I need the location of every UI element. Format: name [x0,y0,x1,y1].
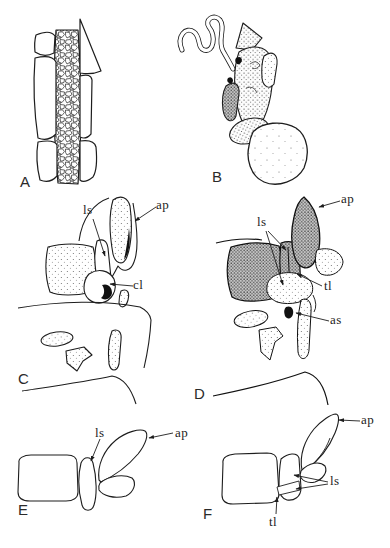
panel-a-drawing [34,19,101,184]
panel-b-drawing [180,17,307,184]
panel-letter-d: D [194,386,205,401]
leader-ap [149,433,173,438]
label-e-ls: ls [95,426,105,439]
leader-ap [135,207,156,221]
panel-e-drawing [18,430,147,510]
right-margin [144,320,151,368]
sclerite-polygon [259,327,283,360]
round-structure [84,271,115,304]
label-d-as: as [330,313,342,326]
label-f-ls: ls [330,474,340,487]
sclerite-oval [233,308,269,330]
apical-process [301,414,338,471]
label-d-tl: tl [324,279,332,292]
top-right-flap [80,19,101,74]
basal-plate [18,455,78,501]
label-d-ap: ap [341,192,354,205]
right-lobe [80,75,92,138]
left-upper-lobe [35,32,55,55]
panel-c-drawing [18,197,151,404]
spiral-ribbon-core [180,17,233,69]
figure-artwork [0,0,390,548]
label-d-ls: ls [257,215,267,228]
label-c-ap: ap [156,198,169,211]
accessory-sclerite [284,306,293,318]
panel-letter-f: F [203,506,212,521]
left-bottom-lobe [37,141,57,181]
apical-process [110,197,131,263]
cobblestone-column [54,30,81,184]
sclerite-strip [297,299,311,358]
fold-curve [18,302,151,320]
leader-ls [91,439,100,461]
panel-letter-a: A [20,174,30,189]
bottom-curve [213,372,328,405]
figure-plate: A B C D E F ls ap cl ls ap tl as ls ap a… [0,0,390,548]
panel-letter-e: E [18,502,28,517]
lateral-sclerite [79,458,96,511]
sclerite-strip [108,330,121,370]
sclerite-oval [40,330,73,348]
label-c-ls: ls [83,203,93,216]
apical-process [99,430,147,482]
left-large-lobe [34,57,56,140]
leader-ap [319,201,340,207]
label-f-tl: tl [269,515,277,528]
label-c-cl: cl [133,278,143,291]
neck-line-2 [313,295,316,312]
panel-letter-b: B [212,169,222,184]
right-lobe [262,53,277,87]
label-f-ap: ap [361,413,374,426]
bottom-curve [22,376,136,404]
leader-ap [339,420,360,421]
sclerite-polygon [66,347,92,371]
apical-triangle [236,23,262,50]
basal-plate [222,453,279,504]
panel-d-drawing [213,197,343,405]
horn-side-lobe [315,249,343,276]
label-e-ap: ap [175,426,188,439]
membrane-line [216,239,262,243]
left-dark-lobe [222,83,239,121]
panel-letter-c: C [18,371,29,386]
large-smooth-lobe [248,123,307,184]
right-bottom-lobe [80,141,97,182]
panel-f-drawing [222,414,339,504]
dark-fold-2 [227,77,233,83]
